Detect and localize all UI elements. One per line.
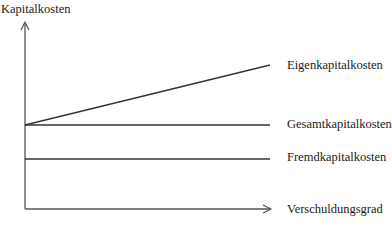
gesamtkapitalkosten-label: Gesamtkapitalkosten: [287, 117, 392, 131]
eigenkapitalkosten-label: Eigenkapitalkosten: [287, 58, 383, 72]
x-axis-label: Verschuldungsgrad: [287, 202, 383, 216]
y-axis: [21, 22, 29, 209]
fremdkapitalkosten-label: Fremdkapitalkosten: [287, 150, 386, 164]
x-axis: [25, 205, 271, 213]
eigenkapitalkosten-line: [25, 65, 270, 125]
y-axis-label: Kapitalkosten: [1, 2, 70, 16]
